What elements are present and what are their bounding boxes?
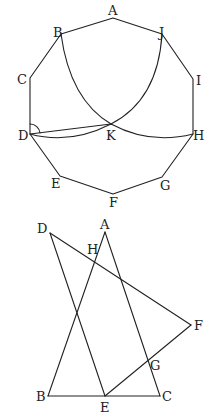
decagon-outline	[30, 18, 193, 194]
label-b: B	[53, 25, 63, 40]
label-f: F	[194, 318, 203, 333]
arc-k-h	[111, 124, 193, 138]
label-g: G	[160, 178, 170, 193]
arc-d-k	[30, 124, 111, 138]
label-c: C	[162, 389, 172, 404]
segment-d-e	[50, 233, 105, 396]
label-a: A	[99, 217, 110, 232]
label-j: J	[157, 25, 164, 40]
label-k: K	[106, 128, 116, 143]
label-h: H	[193, 128, 204, 143]
label-i: I	[196, 73, 201, 88]
label-e: E	[51, 176, 61, 191]
label-d: D	[18, 128, 28, 143]
triangles-figure: D A H F G B C E	[36, 217, 203, 415]
segment-e-f	[105, 325, 191, 396]
arc-j-k	[111, 34, 162, 124]
label-h: H	[87, 242, 98, 257]
label-b: B	[36, 389, 46, 404]
arc-b-k	[61, 34, 111, 124]
segment-d-f	[50, 233, 191, 325]
label-c: C	[17, 72, 27, 87]
label-a: A	[107, 3, 118, 18]
label-g: G	[150, 358, 160, 373]
decagon-figure: A B J C I D K H E G F	[17, 3, 204, 210]
label-d: D	[37, 221, 47, 236]
label-f: F	[109, 195, 118, 210]
geometry-diagram: A B J C I D K H E G F D A H F G B C E	[0, 0, 217, 418]
angle-mark-d	[30, 124, 40, 133]
label-e: E	[100, 400, 110, 415]
